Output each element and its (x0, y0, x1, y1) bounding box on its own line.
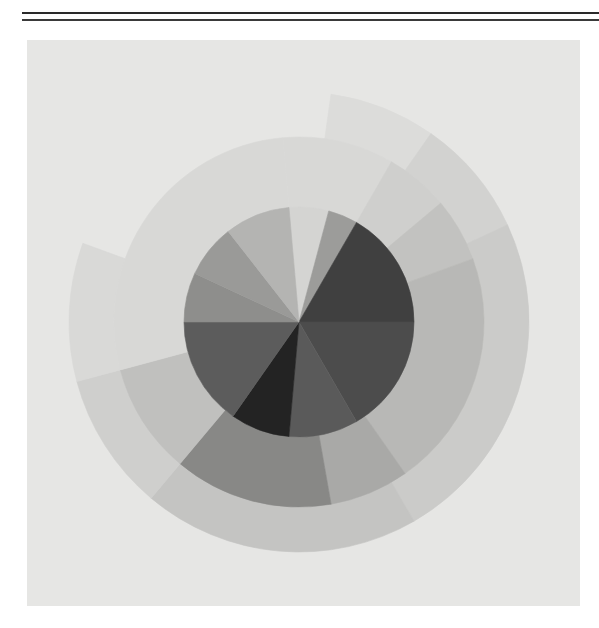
concentric-circle-artwork (0, 0, 599, 628)
